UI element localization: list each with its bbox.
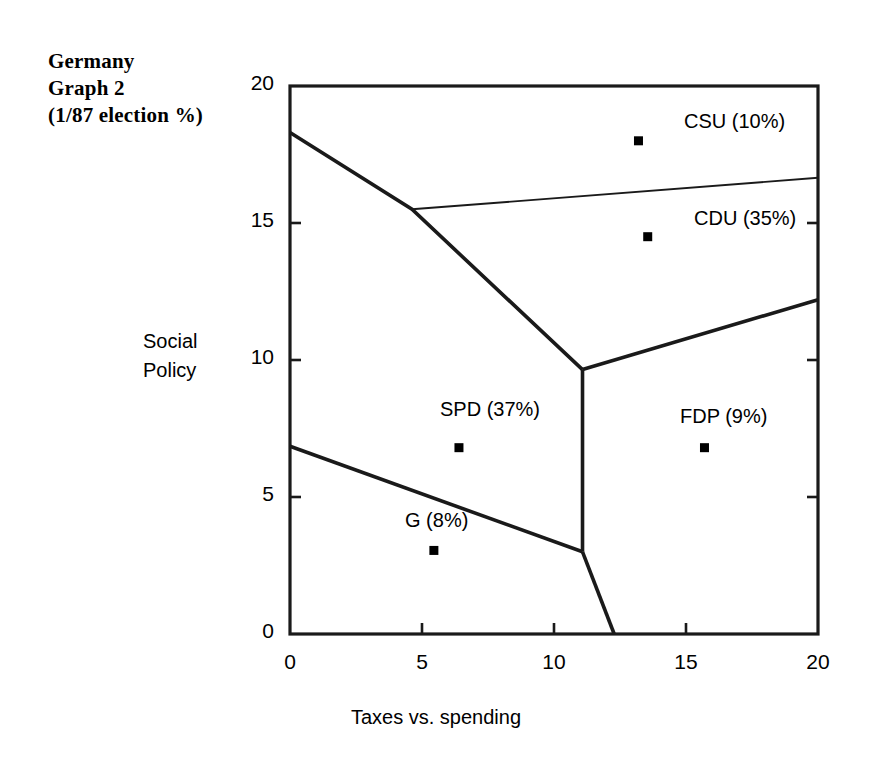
y-tick-label-5: 5: [214, 482, 274, 506]
lower-left-boundary: [290, 446, 583, 551]
marker-cdu: [643, 232, 652, 241]
y-tick-label-20: 20: [214, 71, 274, 95]
x-tick-label-20: 20: [788, 650, 848, 674]
chart-canvas: Germany Graph 2 (1/87 election %) Social…: [0, 0, 872, 759]
marker-csu: [634, 136, 643, 145]
point-label-cdu: CDU (35%): [694, 207, 796, 230]
plot-frame: [290, 86, 818, 634]
axes-frame: [290, 86, 818, 634]
x-tick-label-0: 0: [260, 650, 320, 674]
upper-left-boundary: [290, 133, 583, 370]
point-label-g: G (8%): [405, 509, 468, 532]
x-tick-label-10: 10: [524, 650, 584, 674]
marker-g: [429, 546, 438, 555]
marker-spd: [454, 443, 463, 452]
y-tick-label-10: 10: [214, 345, 274, 369]
upper-right-boundary: [412, 178, 818, 210]
y-tick-label-15: 15: [214, 208, 274, 232]
point-label-csu: CSU (10%): [684, 110, 785, 133]
x-tick-label-15: 15: [656, 650, 716, 674]
point-label-spd: SPD (37%): [440, 398, 540, 421]
point-label-fdp: FDP (9%): [680, 405, 767, 428]
axis-ticks: [290, 223, 818, 634]
y-tick-label-0: 0: [214, 619, 274, 643]
x-tick-label-5: 5: [392, 650, 452, 674]
right-boundary: [583, 300, 818, 370]
lower-right-boundary: [583, 552, 615, 634]
marker-fdp: [700, 443, 709, 452]
